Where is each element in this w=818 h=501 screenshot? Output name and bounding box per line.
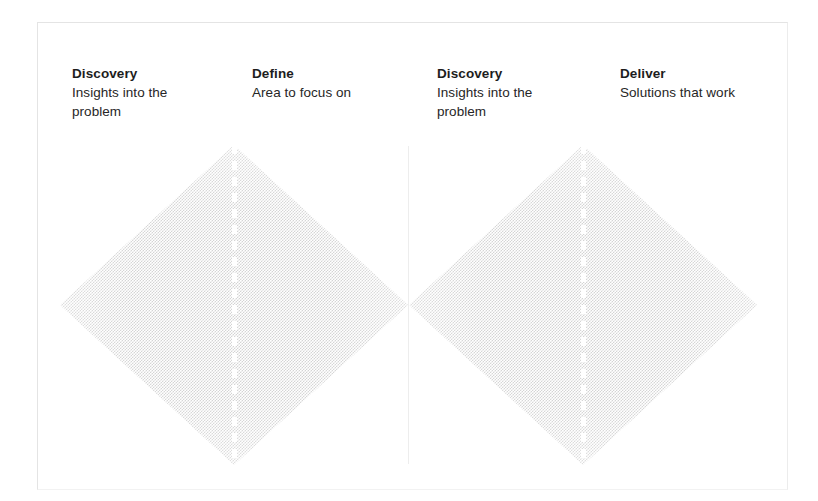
diamond-fill (60, 145, 408, 465)
diagram-labels: Discovery Insights into the problem Defi… (0, 0, 818, 140)
label-title: Define (252, 64, 427, 83)
label-block-discovery-right: Discovery Insights into the problem (437, 64, 567, 121)
label-title: Deliver (620, 64, 795, 83)
diamond-vignette (60, 145, 408, 465)
diamond-fill (409, 145, 757, 465)
label-title: Discovery (72, 64, 202, 83)
diamond-vignette (409, 145, 757, 465)
label-subtitle: Area to focus on (252, 83, 427, 102)
label-block-discovery-left: Discovery Insights into the problem (72, 64, 202, 121)
diamond-shape-right (409, 145, 757, 465)
label-subtitle: Solutions that work (620, 83, 795, 102)
label-subtitle: Insights into the problem (72, 83, 202, 121)
label-title: Discovery (437, 64, 567, 83)
diamond-shape-left (60, 145, 408, 465)
label-block-define: Define Area to focus on (252, 64, 427, 102)
diamond-centre-dashed-line (581, 145, 586, 465)
diamond-centre-dashed-line (232, 145, 237, 465)
label-subtitle: Insights into the problem (437, 83, 567, 121)
label-block-deliver: Deliver Solutions that work (620, 64, 795, 102)
double-diamond-diagram: Discovery Insights into the problem Defi… (0, 0, 818, 501)
diagram-middle-divider (408, 146, 409, 464)
